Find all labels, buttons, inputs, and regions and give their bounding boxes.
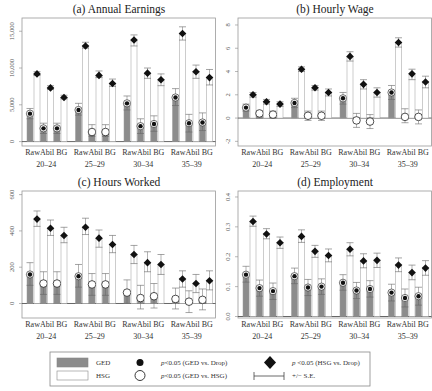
hsg-bar (374, 260, 380, 316)
age-group-label: 35–39 (182, 332, 202, 341)
y-tick-label: 0.4 (224, 192, 231, 201)
age-group-label: 35–39 (182, 160, 202, 169)
legend-dot-label: p<0.05 (GED vs. Drop) (160, 359, 228, 367)
hsg-bar (48, 228, 54, 303)
plot-frame (238, 18, 432, 146)
hsg-bar (326, 92, 332, 118)
dot-icon (55, 126, 59, 130)
dot-icon (389, 290, 393, 294)
hsg-bar (277, 243, 283, 317)
measure-group-label: RawAbil BG (122, 320, 164, 329)
age-group-label: 20–24 (252, 160, 272, 169)
hsg-bar (180, 33, 186, 141)
hsg-bar (250, 221, 256, 316)
y-tick-label: 600 (8, 190, 15, 200)
y-tick-label: 8 (224, 23, 231, 26)
y-tick-label: 2 (224, 93, 231, 96)
y-tick-label: 5,000 (8, 97, 15, 112)
hsg-bar (347, 249, 353, 316)
dot-icon (200, 120, 204, 124)
hsg-bar (299, 69, 305, 118)
legend-ged-label: GED (96, 359, 110, 367)
y-tick-label: 0 (224, 116, 231, 119)
legend-se-label: +/− S.E. (292, 372, 316, 380)
open-circle-icon (40, 280, 48, 288)
chart-panels: (a) Annual Earnings05,00010,00015,000Raw… (8, 3, 432, 341)
measure-group-label: RawAbil BG (387, 320, 429, 329)
legend: GED HSG p<0.05 (GED vs. Drop) p<0.05 (GE… (50, 352, 370, 386)
measure-group-label: RawAbil BG (25, 148, 67, 157)
open-circle-icon (401, 113, 409, 121)
dot-icon (244, 105, 248, 109)
open-circle-icon (415, 113, 423, 121)
dot-icon (125, 101, 129, 105)
dot-icon (341, 96, 345, 100)
open-circle-icon (53, 280, 61, 288)
open-circle-icon (269, 111, 277, 119)
legend-hsg-label: HSG (96, 372, 110, 380)
panel-3: (c) Hours Worked0200400600RawAbil BG20–2… (8, 176, 216, 341)
measure-group-label: RawAbil BG (290, 320, 332, 329)
y-tick-label: 15,000 (8, 22, 15, 40)
measure-group-label: RawAbil BG (338, 148, 380, 157)
hsg-bar (131, 40, 137, 142)
dot-icon (368, 287, 372, 291)
dot-icon (76, 108, 80, 112)
measure-group-label: RawAbil BG (171, 148, 213, 157)
hsg-bar (299, 236, 305, 316)
age-group-label: 30–34 (349, 332, 369, 341)
hsg-bar (326, 256, 332, 317)
y-tick-label: -2 (224, 139, 231, 144)
panel-title: (d) Employment (297, 176, 373, 189)
dot-icon (173, 95, 177, 99)
hsg-bar (34, 74, 40, 142)
hsg-bar (34, 219, 40, 303)
figure: (a) Annual Earnings05,00010,00015,000Raw… (0, 0, 432, 391)
dot-icon (138, 124, 142, 128)
open-circle-icon (366, 118, 374, 126)
panel-2: (b) Hourly Wage-202468RawAbil BG20–24Raw… (224, 3, 432, 169)
dot-icon (403, 296, 407, 300)
age-group-label: 30–34 (133, 160, 153, 169)
dot-icon (319, 284, 323, 288)
y-tick-label: 4 (224, 69, 231, 73)
open-circle-icon (185, 298, 193, 306)
dot-icon (416, 294, 420, 298)
hsg-bar (145, 73, 151, 141)
dot-icon (187, 121, 191, 125)
dot-icon (41, 126, 45, 130)
y-tick-label: 0.3 (224, 223, 231, 231)
age-group-label: 20–24 (252, 332, 272, 341)
legend-diamond-label: p <0.05 (HSG vs. Drop) (291, 359, 360, 367)
hsg-bar (61, 97, 67, 141)
dot-icon (389, 90, 393, 94)
open-circle-icon (102, 281, 110, 289)
age-group-label: 25–29 (85, 332, 105, 341)
dot-icon (28, 272, 32, 276)
hsg-bar (83, 46, 89, 142)
hsg-bar (396, 265, 402, 316)
hsg-bar (96, 238, 102, 303)
hsg-bar (96, 75, 102, 141)
measure-group-label: RawAbil BG (25, 320, 67, 329)
dot-icon (341, 281, 345, 285)
measure-group-label: RawAbil BG (290, 148, 332, 157)
measure-group-label: RawAbil BG (338, 320, 380, 329)
panel-1: (a) Annual Earnings05,00010,00015,000Raw… (8, 3, 216, 169)
open-circle-icon (123, 289, 131, 297)
y-tick-label: 0 (8, 140, 15, 143)
age-group-label: 35–39 (398, 332, 418, 341)
legend-open-circle-icon (135, 371, 145, 381)
dot-icon (244, 272, 248, 276)
age-group-label: 35–39 (398, 160, 418, 169)
legend-hsg-swatch (57, 371, 88, 380)
age-group-label: 25–29 (301, 332, 321, 341)
open-circle-icon (172, 295, 180, 303)
hsg-bar (312, 88, 318, 118)
hsg-bar (158, 80, 164, 142)
y-tick-label: 0.2 (224, 253, 231, 261)
hsg-bar (83, 227, 89, 303)
hsg-bar (193, 72, 199, 142)
panel-4: (d) Employment0.00.10.20.30.4RawAbil BG2… (224, 176, 432, 341)
dot-icon (271, 289, 275, 293)
